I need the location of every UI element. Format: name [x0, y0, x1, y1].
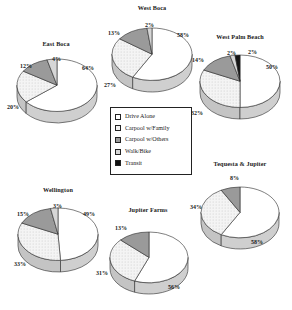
pct-west-boca-0: 58% — [177, 32, 189, 38]
pct-wpb-3: 2% — [227, 50, 236, 56]
pie-tequesta-jupiter — [200, 186, 280, 250]
legend-item-walk-bike: Walk/Bike — [115, 146, 187, 158]
pct-wellington-1: 33% — [14, 261, 26, 267]
legend-swatch-walk-bike — [115, 149, 121, 155]
chart-west-palm-beach: West Palm Beach 50% 32% 14% 2% 2% — [190, 33, 290, 131]
legend-label-carpool-family: Carpool w/Family — [125, 125, 170, 132]
legend-swatch-carpool-family — [115, 125, 121, 131]
pct-east-boca-1: 20% — [7, 104, 19, 110]
chart-title-jupiter-farms: Jupiter Farms — [96, 206, 200, 213]
legend-swatch-carpool-others — [115, 137, 121, 143]
chart-title-wellington: Wellington — [6, 186, 110, 193]
mode-legend: Drive Alone Carpool w/Family Carpool w/O… — [110, 107, 192, 175]
legend-item-carpool-family: Carpool w/Family — [115, 123, 187, 135]
legend-item-carpool-others: Carpool w/Others — [115, 134, 187, 146]
figure-canvas: East Boca 64% 20% 12% 4% West Boca 58% 2… — [0, 0, 292, 310]
chart-jupiter-farms: Jupiter Farms 56% 31% 13% — [96, 206, 200, 306]
pct-east-boca-0: 64% — [82, 65, 94, 71]
legend-label-carpool-others: Carpool w/Others — [125, 136, 169, 143]
pct-west-boca-2: 13% — [108, 30, 120, 36]
pct-wpb-1: 32% — [191, 110, 203, 116]
pct-wellington-0: 49% — [83, 211, 95, 217]
legend-label-transit: Transit — [125, 160, 142, 167]
pct-wpb-0: 50% — [266, 64, 278, 70]
pct-jupiter-farms-1: 31% — [96, 270, 108, 276]
legend-item-drive-alone: Drive Alone — [115, 111, 187, 123]
legend-label-walk-bike: Walk/Bike — [125, 148, 151, 155]
pct-tequesta-1: 34% — [190, 204, 202, 210]
chart-wellington: Wellington 49% 33% 15% 3% — [6, 186, 110, 284]
chart-west-boca: West Boca 58% 27% 13% 2% — [100, 4, 204, 104]
chart-east-boca: East Boca 64% 20% 12% 4% — [6, 40, 106, 132]
pct-wpb-4: 2% — [248, 49, 257, 55]
chart-title-west-boca: West Boca — [100, 4, 204, 11]
pct-east-boca-3: 4% — [52, 56, 61, 62]
pct-jupiter-farms-0: 56% — [168, 284, 180, 290]
legend-swatch-drive-alone — [115, 114, 121, 120]
pct-jupiter-farms-2: 13% — [115, 225, 127, 231]
pct-wellington-3: 3% — [53, 203, 62, 209]
pct-tequesta-0: 58% — [251, 239, 263, 245]
legend-label-drive-alone: Drive Alone — [125, 113, 155, 120]
pct-tequesta-2: 8% — [230, 175, 239, 181]
pct-west-boca-3: 2% — [145, 22, 154, 28]
pct-west-boca-1: 27% — [104, 82, 116, 88]
chart-tequesta-jupiter: Tequesta & Jupiter 58% 34% 8% — [190, 160, 290, 260]
legend-swatch-transit — [115, 160, 121, 166]
chart-title-tequesta-jupiter: Tequesta & Jupiter — [190, 160, 290, 167]
pct-wpb-2: 14% — [192, 57, 204, 63]
legend-item-transit: Transit — [115, 157, 187, 169]
chart-title-east-boca: East Boca — [6, 40, 106, 47]
pct-wellington-2: 15% — [17, 211, 29, 217]
pct-east-boca-2: 12% — [20, 63, 32, 69]
chart-title-west-palm-beach: West Palm Beach — [190, 33, 290, 40]
